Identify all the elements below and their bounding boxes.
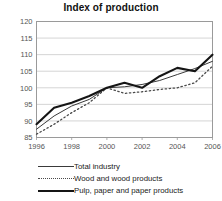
y-axis-tick-label: 110 xyxy=(21,50,33,59)
legend-item-wood-and-wood-products: Wood and wood products xyxy=(0,172,222,184)
y-axis-tick-label: 120 xyxy=(20,17,33,26)
x-axis-tick-label: 1996 xyxy=(28,142,45,151)
chart-container: Index of production 85909510010511011512… xyxy=(0,0,222,201)
y-axis-tick-label: 95 xyxy=(24,100,32,109)
y-axis-tick-label: 90 xyxy=(24,117,32,126)
legend-item-total-industry: Total industry xyxy=(0,160,222,172)
y-axis-tick-label: 100 xyxy=(20,84,33,93)
x-axis-tick-label: 2000 xyxy=(99,142,116,151)
x-axis-tick-label: 2002 xyxy=(134,142,151,151)
plot-frame xyxy=(37,22,213,138)
x-axis-tick-label: 1998 xyxy=(63,142,80,151)
legend-label-total-industry: Total industry xyxy=(74,161,120,172)
legend-line-icon-total-industry xyxy=(38,161,74,172)
x-axis-tick-label: 2004 xyxy=(169,142,186,151)
legend-line-icon-wood-and-wood-products xyxy=(38,173,74,184)
chart-legend: Total industry Wood and wood products Pu… xyxy=(0,160,222,201)
y-axis-tick-labels: 859095100105110115120 xyxy=(20,17,33,142)
legend-line-icon-pulp-paper-and-paper-products xyxy=(38,185,74,196)
data-series-layer xyxy=(37,55,213,135)
legend-label-wood-and-wood-products: Wood and wood products xyxy=(74,173,162,184)
legend-item-pulp-paper-and-paper-products: Pulp, paper and paper products xyxy=(0,184,222,196)
x-axis-tick-labels: 199619982000200220042006 xyxy=(28,142,221,151)
x-axis-tick-label: 2006 xyxy=(204,142,221,151)
y-axis-tick-label: 115 xyxy=(21,34,33,43)
y-axis-tick-label: 105 xyxy=(20,67,33,76)
series-line xyxy=(37,55,213,125)
plot-area: 859095100105110115120 199619982000200220… xyxy=(0,0,222,160)
legend-label-pulp-paper-and-paper-products: Pulp, paper and paper products xyxy=(74,185,183,196)
series-line xyxy=(37,66,213,134)
